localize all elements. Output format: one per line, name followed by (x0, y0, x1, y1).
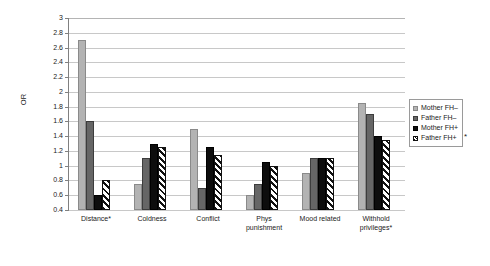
legend-item-label: Mother FH+ (421, 124, 458, 132)
legend-item-label: Father FH– (421, 114, 456, 122)
bar (254, 184, 262, 210)
bar (302, 173, 310, 210)
y-tick-label: 1.6 (53, 117, 63, 124)
x-tick-label: Distance* (68, 214, 124, 223)
y-tick-label: 2.8 (53, 29, 63, 36)
legend-swatch-icon (413, 136, 418, 141)
bar (374, 136, 382, 210)
x-tick-label: Mood related (292, 214, 348, 223)
bar (102, 180, 110, 210)
bar-chart: OR 32.82.62.42.221.81.61.41.210.80.60.4 … (0, 0, 490, 266)
y-axis-title: OR (19, 94, 28, 105)
y-tick-label: 1.8 (53, 103, 63, 110)
x-tick-label: Coldness (124, 214, 180, 223)
bar (206, 147, 214, 210)
legend-swatch-icon (413, 126, 418, 131)
y-tick-label: 1.2 (53, 147, 63, 154)
y-tick-label: 0.4 (53, 206, 63, 213)
legend-item: Mother FH+ (413, 123, 458, 133)
y-tick-label: 2.6 (53, 44, 63, 51)
legend-swatch-icon (413, 116, 418, 121)
bar (310, 158, 318, 210)
y-tick-label: 2 (59, 88, 63, 95)
bar (382, 140, 390, 210)
legend-item-label: Mother FH– (421, 104, 458, 112)
bar (358, 103, 366, 210)
bar (150, 144, 158, 210)
bar (134, 184, 142, 210)
gridline (69, 210, 405, 211)
y-tick-mark (65, 210, 69, 211)
x-tick-label: Conflict (180, 214, 236, 223)
y-tick-label: 3 (59, 14, 63, 21)
bar (366, 114, 374, 210)
y-axis-tick-labels: 32.82.62.42.221.81.61.41.210.80.60.4 (38, 18, 63, 210)
bar (318, 158, 326, 210)
bar (190, 129, 198, 210)
x-tick-label: Phys punishment (236, 214, 292, 232)
y-tick-label: 0.6 (53, 191, 63, 198)
bar (246, 195, 254, 210)
y-tick-label: 2.4 (53, 58, 63, 65)
x-tick-label: Withhold privileges* (348, 214, 404, 232)
x-axis-tick-labels: Distance*ColdnessConflictPhys punishment… (68, 18, 404, 88)
y-tick-label: 2.2 (53, 73, 63, 80)
legend-item-label: Father FH+ (421, 134, 457, 142)
y-tick-label: 1 (59, 162, 63, 169)
floating-asterisk-annotation: * (464, 132, 467, 141)
bar (214, 155, 222, 210)
y-tick-label: 1.4 (53, 132, 63, 139)
legend-item: Mother FH– (413, 103, 458, 113)
bar (326, 158, 334, 210)
bar (262, 162, 270, 210)
bar (142, 158, 150, 210)
legend-item: Father FH– (413, 113, 458, 123)
legend-item: Father FH+ (413, 133, 458, 143)
y-tick-label: 0.8 (53, 176, 63, 183)
bar (158, 147, 166, 210)
bar (86, 121, 94, 210)
legend-swatch-icon (413, 106, 418, 111)
chart-legend: Mother FH–Father FH–Mother FH+Father FH+ (409, 99, 463, 147)
bar (94, 195, 102, 210)
bar (198, 188, 206, 210)
bar (270, 166, 278, 210)
